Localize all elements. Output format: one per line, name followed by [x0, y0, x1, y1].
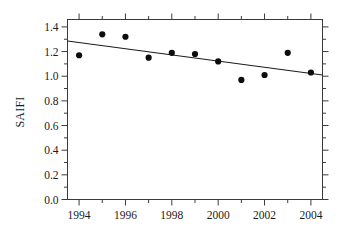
trend-line [68, 41, 323, 75]
y-axis-tick-labels: 0.00.20.40.60.81.01.21.4 [44, 21, 59, 206]
data-point-1998 [169, 50, 175, 56]
y-tick-label-1.0: 1.0 [44, 70, 59, 82]
y-tick-label-1.4: 1.4 [44, 21, 59, 33]
x-tick-label-1998: 1998 [160, 209, 183, 221]
x-tick-label-1996: 1996 [114, 209, 137, 221]
scatter-plot-svg: 199419961998200020022004 0.00.20.40.60.8… [0, 0, 344, 243]
data-point-1995 [99, 31, 105, 37]
data-point-2001 [238, 77, 244, 83]
y-axis-title: SAIFI [13, 96, 27, 127]
x-tick-label-2004: 2004 [299, 209, 322, 221]
data-point-1999 [192, 51, 198, 57]
data-point-2003 [285, 50, 291, 56]
x-tick-label-2000: 2000 [207, 209, 230, 221]
y-tick-label-1.2: 1.2 [44, 46, 59, 58]
y-tick-label-0.4: 0.4 [44, 144, 59, 156]
regression-trend-line [68, 41, 323, 75]
y-tick-label-0.8: 0.8 [44, 95, 59, 107]
data-point-2004 [308, 69, 314, 75]
y-tick-label-0.0: 0.0 [44, 194, 59, 206]
x-axis-ticks [79, 14, 311, 206]
data-points [76, 31, 314, 83]
x-axis-tick-labels: 199419961998200020022004 [68, 209, 323, 221]
chart-figure: 199419961998200020022004 0.00.20.40.60.8… [0, 0, 344, 243]
y-tick-label-0.2: 0.2 [44, 169, 59, 181]
y-tick-label-0.6: 0.6 [44, 120, 59, 132]
x-tick-label-1994: 1994 [68, 209, 91, 221]
data-point-1997 [146, 55, 152, 61]
data-point-2002 [261, 72, 267, 78]
data-point-2000 [215, 58, 221, 64]
x-tick-label-2002: 2002 [253, 209, 276, 221]
data-point-1996 [122, 34, 128, 40]
data-point-1994 [76, 52, 82, 58]
